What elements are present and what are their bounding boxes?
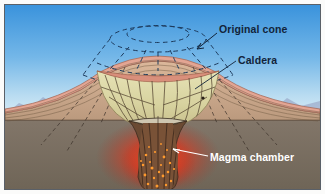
- label-magma-chamber: Magma chamber: [210, 151, 294, 163]
- fracture-node: [201, 96, 204, 99]
- label-original-cone: Original cone: [219, 23, 287, 35]
- label-caldera: Caldera: [238, 54, 277, 66]
- caldera-diagram-figure: Original cone Caldera Magma chamber: [0, 0, 325, 194]
- diagram-frame: Original cone Caldera Magma chamber: [4, 4, 321, 190]
